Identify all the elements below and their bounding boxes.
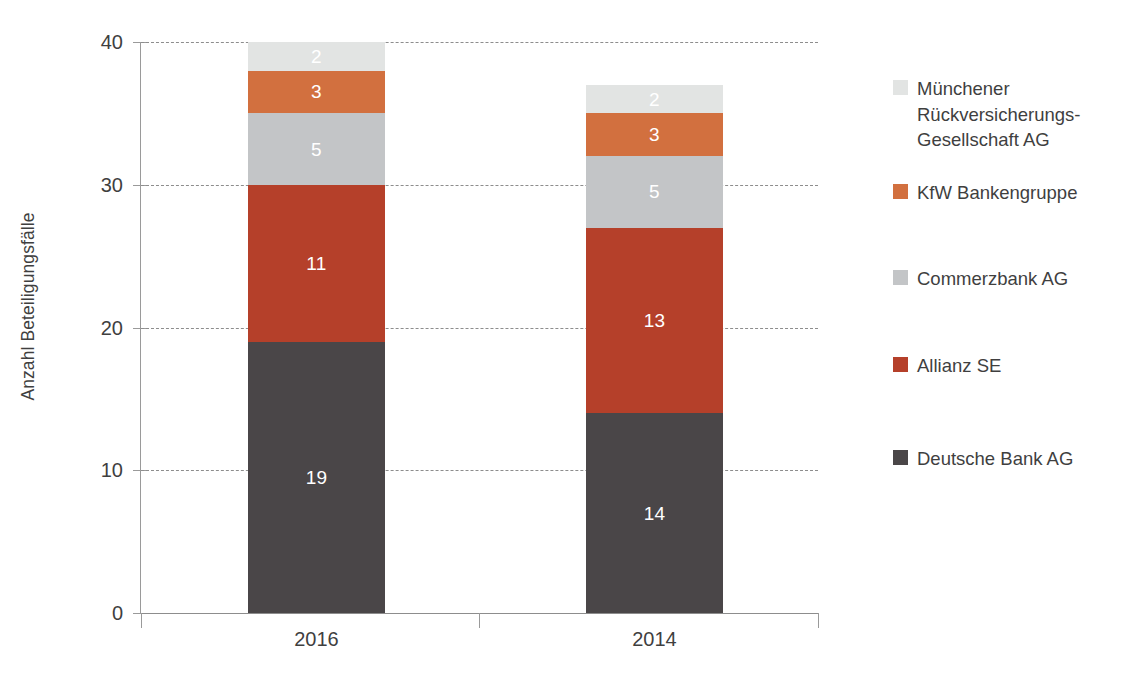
y-axis-title: Anzahl Beteiligungsfälle bbox=[8, 0, 48, 613]
bar-segment-value: 3 bbox=[649, 125, 660, 144]
legend-item[interactable]: KfW Bankengruppe bbox=[893, 180, 1077, 206]
bar-2016[interactable]: 1911532 bbox=[248, 42, 385, 613]
stacked-bar-chart: Anzahl Beteiligungsfälle 010203040 19115… bbox=[0, 0, 1145, 679]
bar-segment[interactable]: 2 bbox=[248, 42, 385, 71]
bar-segment[interactable]: 19 bbox=[248, 342, 385, 613]
legend-item-label: Allianz SE bbox=[917, 353, 1001, 379]
bar-segment[interactable]: 3 bbox=[586, 113, 723, 156]
gridline-40 bbox=[141, 42, 818, 43]
x-tick-label-2016: 2016 bbox=[237, 628, 397, 651]
bar-segment-value: 2 bbox=[649, 90, 660, 109]
bar-segment[interactable]: 14 bbox=[586, 413, 723, 613]
legend-item[interactable]: Commerzbank AG bbox=[893, 266, 1068, 292]
bar-segment[interactable]: 11 bbox=[248, 185, 385, 342]
bar-segment-value: 14 bbox=[644, 504, 666, 523]
legend-item-label: Commerzbank AG bbox=[917, 266, 1068, 292]
bar-segment-value: 5 bbox=[649, 182, 660, 201]
x-tick-mark-0 bbox=[141, 613, 142, 628]
bar-segment[interactable]: 5 bbox=[248, 113, 385, 184]
legend-item-label: Deutsche Bank AG bbox=[917, 446, 1073, 472]
y-tick-label-20: 20 bbox=[71, 316, 123, 339]
y-tick-label-10: 10 bbox=[71, 459, 123, 482]
x-tick-mark-1 bbox=[479, 613, 480, 628]
bar-segment[interactable]: 5 bbox=[586, 156, 723, 227]
y-axis-title-text: Anzahl Beteiligungsfälle bbox=[18, 212, 39, 400]
legend-swatch-icon bbox=[893, 357, 908, 372]
bar-segment-value: 2 bbox=[311, 47, 322, 66]
bar-segment-value: 19 bbox=[306, 468, 328, 487]
x-tick-mark-2 bbox=[818, 613, 819, 628]
legend-swatch-icon bbox=[893, 450, 908, 465]
bar-segment-value: 3 bbox=[311, 82, 322, 101]
bar-segment-value: 13 bbox=[644, 311, 666, 330]
plot-area: 19115321413532 bbox=[141, 42, 818, 613]
legend-swatch-icon bbox=[893, 270, 908, 285]
y-tick-label-0: 0 bbox=[71, 602, 123, 625]
y-tick-label-40: 40 bbox=[71, 31, 123, 54]
bar-segment[interactable]: 3 bbox=[248, 71, 385, 114]
legend-item[interactable]: Münchener Rückversicherungs-Gesellschaft… bbox=[893, 76, 1132, 153]
y-tick-label-30: 30 bbox=[71, 173, 123, 196]
bar-segment-value: 5 bbox=[311, 140, 322, 159]
legend-swatch-icon bbox=[893, 80, 908, 95]
legend-item[interactable]: Deutsche Bank AG bbox=[893, 446, 1073, 472]
legend-item[interactable]: Allianz SE bbox=[893, 353, 1001, 379]
bar-segment[interactable]: 13 bbox=[586, 228, 723, 414]
legend-item-label: KfW Bankengruppe bbox=[917, 180, 1077, 206]
x-tick-label-2014: 2014 bbox=[575, 628, 735, 651]
bar-segment[interactable]: 2 bbox=[586, 85, 723, 114]
legend-swatch-icon bbox=[893, 184, 908, 199]
x-axis-line bbox=[141, 613, 819, 614]
bar-2014[interactable]: 1413532 bbox=[586, 85, 723, 613]
legend-item-label: Münchener Rückversicherungs-Gesellschaft… bbox=[917, 76, 1132, 153]
bar-segment-value: 11 bbox=[306, 254, 326, 273]
